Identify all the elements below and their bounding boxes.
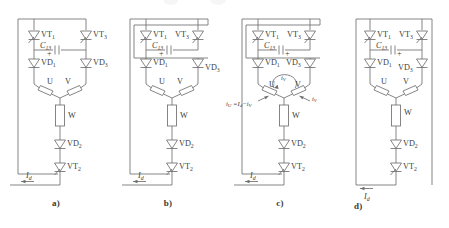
current-iv-annotation: iV [312, 95, 318, 103]
current-id-label: Id [137, 171, 144, 181]
current-id-label: Id [25, 171, 32, 181]
diode-vd3 [81, 59, 92, 78]
vt3-label: VT3 [287, 30, 301, 40]
diode-vd1 [141, 59, 152, 78]
winding-u [150, 86, 165, 96]
circuit-panel-a: VT1 VT3 C13 + [0, 0, 112, 228]
winding-u-label: U [381, 77, 387, 86]
capacitor-polarity-plus: + [47, 49, 52, 58]
vt3-label: VT3 [93, 30, 107, 40]
vt1-label: VT1 [41, 30, 55, 40]
schematic-b: VT1 VT3 C13 + VD1 [112, 0, 224, 205]
c13-label: C13 [376, 41, 387, 51]
current-iu-arrow [258, 96, 269, 101]
vt1-label: VT1 [265, 30, 279, 40]
winding-v [403, 86, 418, 96]
winding-v-label: V [177, 77, 183, 86]
diode-vd1 [253, 59, 264, 78]
vd3-label: VD3 [286, 58, 301, 68]
winding-v-label: V [295, 80, 301, 89]
schematic-c: VT1 VT3 C13 + VD1 [224, 0, 336, 205]
current-id-arrow [133, 180, 146, 183]
vd1-label: VD1 [41, 58, 56, 68]
thyristor-vt1 [141, 31, 152, 50]
circuit-panel-c: VT1 VT3 C13 + VD1 [224, 0, 336, 228]
vd2-label: VD2 [179, 139, 194, 149]
diode-vd2 [279, 140, 290, 163]
winding-u-label: U [269, 80, 275, 89]
vt3-label: VT3 [399, 30, 413, 40]
diode-vd2 [391, 140, 402, 163]
thyristor-vt3 [193, 31, 204, 50]
vt1-label: VT1 [153, 30, 167, 40]
thyristor-vt3 [305, 31, 316, 50]
winding-v-label: V [403, 77, 409, 86]
thyristor-vt2 [391, 163, 402, 185]
thyristor-vt3 [417, 31, 428, 50]
winding-w-label: W [292, 111, 300, 120]
diode-vd3 [417, 59, 428, 78]
vd1-label: VD1 [153, 58, 168, 68]
thyristor-vt1 [365, 31, 376, 50]
diode-vd3 [193, 59, 204, 78]
current-id-label: Id [249, 171, 256, 181]
vd2-label: VD2 [67, 139, 82, 149]
winding-w [168, 105, 177, 126]
thyristor-vt3 [81, 31, 92, 50]
c13-label: C13 [264, 41, 275, 51]
panel-caption-b: b) [112, 198, 224, 208]
panel-caption-a: a) [0, 198, 112, 208]
diode-vd2 [167, 140, 178, 163]
current-id-arrow [245, 180, 258, 183]
vd2-label: VD2 [403, 139, 418, 149]
winding-u-label: U [159, 77, 165, 86]
schematic-a: VT1 VT3 C13 + [0, 0, 112, 205]
current-iu-annotation: iU =Id−iV [226, 100, 253, 108]
winding-w-label: W [180, 111, 188, 120]
thyristor-vt1 [29, 31, 40, 50]
vt2-label: VT2 [291, 162, 305, 172]
vd3-label: VD3 [93, 58, 108, 68]
diode-vd2 [55, 140, 66, 163]
circuit-panel-d: VT1 VT3 C13 + VD1 [336, 0, 448, 228]
diode-vd3 [305, 59, 316, 78]
winding-v [179, 86, 194, 96]
winding-w-label: W [68, 111, 76, 120]
vt2-label: VT2 [403, 162, 417, 172]
vt2-label: VT2 [67, 162, 81, 172]
schematic-d: VT1 VT3 C13 + VD1 [336, 0, 448, 205]
figure-sheet: VT1 VT3 C13 + [0, 0, 449, 228]
vt3-label: VT3 [175, 30, 189, 40]
capacitor-polarity-plus: + [285, 49, 290, 58]
vd3-label: VD3 [398, 63, 413, 73]
vd1-label: VD1 [265, 58, 280, 68]
current-id-label: Id [363, 192, 370, 202]
vt2-label: VT2 [179, 162, 193, 172]
winding-u-label: U [47, 77, 53, 86]
winding-w-label: W [404, 108, 412, 117]
winding-v-label: V [65, 77, 71, 86]
vd2-label: VD2 [291, 139, 306, 149]
diode-vd1 [29, 59, 40, 78]
vt1-label: VT1 [377, 30, 391, 40]
current-id-arrow [21, 180, 34, 183]
winding-w [280, 105, 289, 126]
capacitor-polarity-plus: + [159, 49, 164, 58]
vd1-label: VD1 [377, 58, 392, 68]
panel-caption-c: c) [224, 198, 336, 208]
panel-caption-d: d) [354, 201, 362, 211]
vd3-label: VD3 [205, 63, 220, 73]
winding-w [392, 105, 401, 126]
thyristor-vt1 [253, 31, 264, 50]
capacitor-polarity-plus: + [397, 49, 402, 58]
diode-vd1 [365, 59, 376, 78]
winding-u [374, 86, 389, 96]
winding-v [67, 86, 82, 96]
winding-w [56, 105, 65, 126]
circuit-panel-b: VT1 VT3 C13 + VD1 [112, 0, 224, 228]
current-iv-loop-label: iV [281, 74, 287, 82]
current-iv-arrow [300, 96, 311, 101]
winding-u [38, 86, 53, 96]
current-id-arrow [360, 187, 373, 190]
